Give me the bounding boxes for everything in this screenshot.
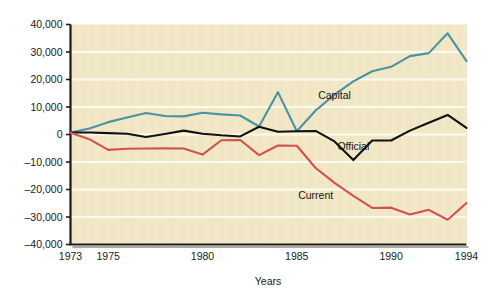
series-label-current: Current — [298, 189, 333, 201]
y-tick-label: –10,000 — [25, 156, 63, 168]
x-tick-label: 1973 — [59, 250, 83, 262]
line-chart: –40,000–30,000–20,000–10,000010,00020,00… — [0, 0, 498, 293]
series-label-official: Official — [337, 140, 369, 152]
x-tick-label: 1980 — [191, 250, 215, 262]
y-tick-label: 20,000 — [30, 73, 62, 85]
y-tick-label: 10,000 — [30, 101, 62, 113]
series-label-capital: Capital — [318, 89, 351, 101]
x-tick-label: 1990 — [379, 250, 403, 262]
y-tick-label: 0 — [57, 128, 63, 140]
y-tick-label: 30,000 — [30, 46, 62, 58]
x-tick-label: 1975 — [97, 250, 121, 262]
x-tick-label: 1994 — [455, 250, 479, 262]
y-tick-label: 40,000 — [30, 18, 62, 30]
chart-figure: –40,000–30,000–20,000–10,000010,00020,00… — [0, 0, 498, 293]
y-tick-label: –20,000 — [25, 183, 63, 195]
x-tick-label: 1985 — [285, 250, 309, 262]
y-tick-label: –30,000 — [25, 211, 63, 223]
y-tick-label: –40,000 — [25, 238, 63, 250]
x-axis-title: Years — [255, 275, 281, 287]
